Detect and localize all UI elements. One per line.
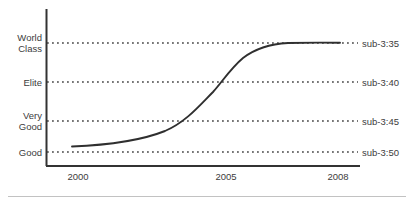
value-label-sub-3-50: sub-3:50: [362, 147, 399, 158]
category-label-elite: Elite: [0, 77, 42, 88]
category-label-good: Good: [0, 147, 42, 158]
progression-curve: [72, 43, 340, 147]
value-label-sub-3-40: sub-3:40: [362, 77, 399, 88]
chart-figure: World Class Elite Very Good Good sub-3:3…: [0, 0, 414, 211]
footer-divider: [8, 196, 406, 197]
x-tick-label-2005: 2005: [204, 171, 248, 182]
category-label-very-good: Very Good: [0, 110, 42, 132]
category-label-world-class: World Class: [0, 32, 42, 54]
x-tick-label-2008: 2008: [316, 171, 360, 182]
value-label-sub-3-35: sub-3:35: [362, 38, 399, 49]
value-label-sub-3-45: sub-3:45: [362, 116, 399, 127]
x-tick-label-2000: 2000: [56, 171, 100, 182]
